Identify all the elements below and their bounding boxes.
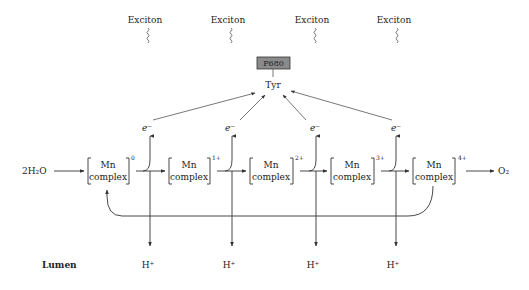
mn-complex-s4: Mn complex 4+ — [413, 154, 467, 184]
electron-arrow — [153, 93, 255, 120]
svg-text:complex: complex — [252, 172, 290, 182]
mn-complex-s0: Mn complex 0 — [88, 154, 135, 184]
svg-text:Mn: Mn — [426, 160, 441, 170]
electron-arrow — [240, 95, 265, 120]
charge-label: 1+ — [212, 154, 221, 161]
proton-label: H⁺ — [387, 260, 400, 270]
reactant-label: 2H₂O — [22, 166, 47, 176]
transition-s0-s1 — [136, 136, 165, 246]
cycle-return-arrow — [107, 186, 433, 216]
mn-complex-s2: Mn complex 2+ — [250, 154, 304, 184]
svg-text:complex: complex — [89, 172, 127, 182]
svg-text:Mn: Mn — [181, 160, 196, 170]
charge-label: 3+ — [376, 154, 385, 161]
mn-complex-s1: Mn complex 1+ — [169, 154, 221, 184]
electron-label: e⁻ — [391, 123, 401, 133]
transition-s2-s3 — [300, 136, 327, 246]
p680-label: P680 — [263, 59, 284, 68]
svg-text:Mn: Mn — [263, 160, 278, 170]
lumen-label: Lumen — [42, 260, 77, 270]
wavy-line-icon — [230, 28, 232, 43]
transition-s1-s2 — [217, 136, 246, 246]
charge-label: 0 — [131, 154, 135, 161]
water-oxidation-diagram: Exciton Exciton Exciton Exciton P680 Tyr… — [0, 0, 529, 290]
proton-label: H⁺ — [307, 260, 320, 270]
svg-text:complex: complex — [415, 172, 453, 182]
wavy-line-icon — [314, 28, 316, 43]
product-label: O₂ — [498, 166, 509, 176]
svg-text:Mn: Mn — [344, 160, 359, 170]
svg-text:Mn: Mn — [100, 160, 115, 170]
wavy-line-icon — [396, 28, 398, 43]
exciton-label: Exciton — [128, 15, 163, 25]
exciton-label: Exciton — [211, 15, 246, 25]
transition-s3-s4 — [381, 136, 409, 246]
proton-label: H⁺ — [142, 260, 155, 270]
electron-arrow — [291, 91, 392, 120]
electron-label: e⁻ — [225, 123, 235, 133]
proton-label: H⁺ — [223, 260, 236, 270]
exciton-label: Exciton — [377, 15, 412, 25]
mn-complex-s3: Mn complex 3+ — [331, 154, 385, 184]
exciton-group: Exciton Exciton Exciton Exciton — [128, 15, 412, 43]
charge-label: 4+ — [458, 154, 467, 161]
exciton-label: Exciton — [295, 15, 330, 25]
tyr-label: Tyr — [265, 80, 281, 90]
electron-label: e⁻ — [142, 123, 152, 133]
svg-text:complex: complex — [170, 172, 208, 182]
charge-label: 2+ — [295, 154, 304, 161]
svg-text:complex: complex — [333, 172, 371, 182]
electron-label: e⁻ — [310, 123, 320, 133]
wavy-line-icon — [147, 28, 149, 43]
electron-arrow — [283, 95, 306, 120]
